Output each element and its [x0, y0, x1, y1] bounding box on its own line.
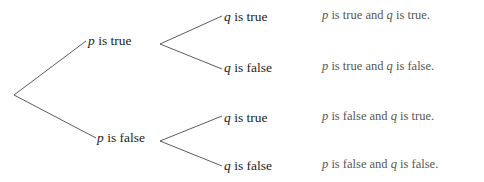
edge-p-false-to-q-false: [160, 141, 222, 166]
edge-p-false-to-q-true: [160, 116, 222, 141]
variable-q: q: [224, 9, 231, 24]
outcome-p-clause: is true and: [328, 8, 386, 22]
node-q-is-true-text: is true: [231, 110, 268, 125]
node-p-is-true: p is true: [88, 34, 132, 48]
outcome-false-true: p is false and q is true.: [322, 110, 434, 123]
node-p-false-q-is-true: q is true: [224, 111, 268, 125]
tree-edges-group: [0, 0, 484, 182]
node-q-is-false-text: is false: [231, 60, 272, 75]
variable-q: q: [224, 110, 231, 125]
edge-p-true-to-q-false: [160, 44, 222, 69]
node-p-is-true-text: is true: [95, 33, 132, 48]
outcome-q-clause: is true.: [397, 109, 434, 123]
node-q-is-true-text: is true: [231, 9, 268, 24]
variable-p: p: [97, 130, 104, 145]
node-p-true-q-is-true: q is true: [224, 10, 268, 24]
node-p-true-q-is-false: q is false: [224, 61, 272, 75]
node-p-is-false-text: is false: [104, 130, 145, 145]
node-p-is-false: p is false: [97, 131, 145, 145]
outcome-p-clause: is false and: [328, 109, 390, 123]
outcome-q-clause: is false.: [393, 59, 434, 73]
outcome-true-true: p is true and q is true.: [322, 9, 430, 22]
outcome-true-false: p is true and q is false.: [322, 60, 434, 73]
edge-p-true-to-q-true: [160, 16, 222, 44]
outcome-false-false: p is false and q is false.: [322, 158, 438, 171]
outcome-p-clause: is true and: [328, 59, 386, 73]
variable-q: q: [224, 60, 231, 75]
variable-q: q: [224, 158, 231, 173]
variable-p: p: [88, 33, 95, 48]
outcome-q-clause: is false.: [397, 157, 438, 171]
edge-root-to-p-true: [14, 41, 86, 95]
outcome-p-clause: is false and: [328, 157, 390, 171]
edge-root-to-p-false: [14, 95, 96, 138]
outcome-q-clause: is true.: [393, 8, 430, 22]
node-p-false-q-is-false: q is false: [224, 159, 272, 173]
truth-tree-diagram: p is true p is false q is true q is fals…: [0, 0, 484, 182]
node-q-is-false-text: is false: [231, 158, 272, 173]
